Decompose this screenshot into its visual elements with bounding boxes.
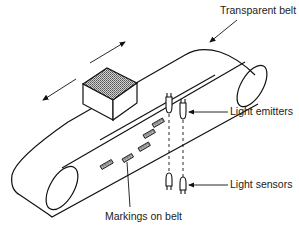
conveyor-diagram: Transparent belt Light emitters Light se… [0, 0, 299, 234]
left-roller [40, 161, 85, 215]
belt-markings [100, 118, 164, 169]
light-beams [169, 114, 183, 182]
transparent-belt-leader [210, 20, 237, 42]
box-on-belt [83, 68, 137, 120]
label-light-emitters: Light emitters [230, 105, 293, 117]
label-transparent-belt: Transparent belt [220, 4, 296, 16]
label-light-sensors: Light sensors [230, 178, 292, 190]
right-roller [231, 61, 273, 112]
transparent-belt [12, 50, 258, 217]
label-markings-on-belt: Markings on belt [105, 210, 182, 222]
markings-leader [127, 162, 130, 207]
